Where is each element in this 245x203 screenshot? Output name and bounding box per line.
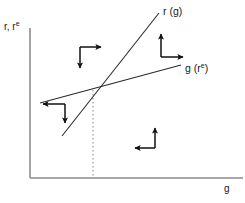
arrow-cluster-lower-right: [135, 128, 155, 148]
y-axis-label-superscript: e: [16, 20, 20, 27]
curve-label-g-of-re: g (re): [185, 63, 208, 74]
arrow-cluster-upper-right: [161, 34, 183, 57]
g-of-re-line: [40, 65, 181, 103]
phase-diagram-figure: r, re g r (g) g (re): [0, 0, 245, 203]
curve-label-g-of-re-head: g (r: [185, 62, 201, 74]
arrow-cluster-left: [43, 104, 65, 123]
y-axis-label: r, re: [4, 22, 20, 32]
axes-group: [30, 28, 243, 178]
curve-label-g-of-re-tail: ): [205, 62, 209, 74]
x-axis-label: g: [224, 184, 230, 194]
diagram-canvas: [0, 0, 245, 203]
curve-label-r-of-g: r (g): [163, 6, 182, 17]
arrow-cluster-upper-left: [80, 47, 101, 68]
curves-group: [40, 13, 181, 136]
y-axis-label-text: r, r: [4, 21, 16, 32]
